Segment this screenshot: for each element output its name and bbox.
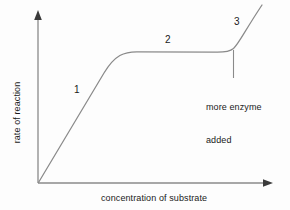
more-enzyme-annotation: more enzyme added: [206, 80, 262, 168]
more-enzyme-line-2: added: [206, 135, 262, 146]
x-axis: [38, 179, 273, 187]
x-axis-title: concentration of substrate: [101, 193, 207, 204]
enzyme-kinetics-figure: 1 2 3 more enzyme added concentration of…: [0, 0, 290, 210]
phase-1-label: 1: [74, 84, 80, 95]
y-axis-title: rate of reaction: [12, 68, 23, 158]
more-enzyme-line-1: more enzyme: [206, 102, 262, 113]
phase-3-label: 3: [234, 16, 240, 27]
phase-2-label: 2: [165, 34, 171, 45]
y-axis: [34, 10, 42, 183]
